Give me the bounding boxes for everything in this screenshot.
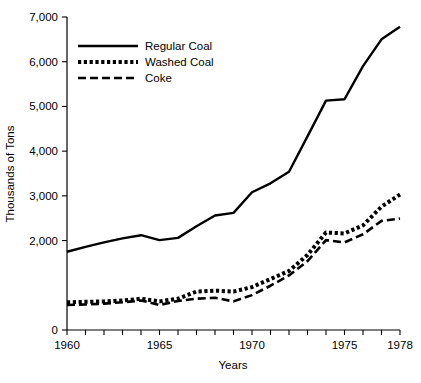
chart-legend: Regular CoalWashed CoalCoke bbox=[78, 40, 214, 84]
x-tick-label: 1965 bbox=[147, 339, 173, 351]
y-axis-title: Thousands of Tons bbox=[4, 125, 16, 222]
x-axis-tick-labels: 19601965197019751978 bbox=[54, 339, 413, 351]
y-tick-label: 6,000 bbox=[29, 56, 58, 68]
legend-label-regular-coal: Regular Coal bbox=[145, 40, 212, 52]
y-tick-label: 0 bbox=[52, 324, 58, 336]
y-axis-ticks bbox=[62, 17, 67, 330]
chart-canvas: 02,0003,0004,0005,0006,0007,000 19601965… bbox=[0, 0, 421, 383]
x-axis-title: Years bbox=[219, 359, 248, 371]
line-chart: 02,0003,0004,0005,0006,0007,000 19601965… bbox=[0, 0, 421, 383]
y-tick-label: 4,000 bbox=[29, 145, 58, 157]
y-tick-label: 5,000 bbox=[29, 100, 58, 112]
y-tick-label: 7,000 bbox=[29, 11, 58, 23]
x-axis-ticks bbox=[67, 330, 400, 335]
legend-label-washed-coal: Washed Coal bbox=[145, 56, 214, 68]
series-line-washed-coal bbox=[67, 195, 400, 303]
x-tick-label: 1970 bbox=[239, 339, 265, 351]
x-tick-label: 1978 bbox=[387, 339, 413, 351]
x-tick-label: 1975 bbox=[332, 339, 358, 351]
y-tick-label: 3,000 bbox=[29, 190, 58, 202]
y-tick-label: 2,000 bbox=[29, 235, 58, 247]
y-axis-tick-labels: 02,0003,0004,0005,0006,0007,000 bbox=[29, 11, 58, 336]
data-series-group bbox=[67, 27, 400, 305]
x-tick-label: 1960 bbox=[54, 339, 80, 351]
legend-label-coke: Coke bbox=[145, 72, 172, 84]
series-line-regular-coal bbox=[67, 27, 400, 252]
